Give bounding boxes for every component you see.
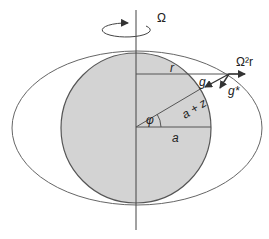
omega-label: Ω — [157, 11, 166, 25]
g-star-label: g* — [228, 84, 240, 98]
centrifugal-label: Ω²r — [236, 55, 253, 69]
g-label: g — [199, 75, 206, 89]
a-label: a — [172, 131, 179, 145]
rotation-arrow-icon — [102, 23, 150, 37]
earth-rotation-diagram: Ω r a a + z φ Ω²r g g* — [0, 0, 269, 239]
phi-label: φ — [146, 113, 154, 127]
